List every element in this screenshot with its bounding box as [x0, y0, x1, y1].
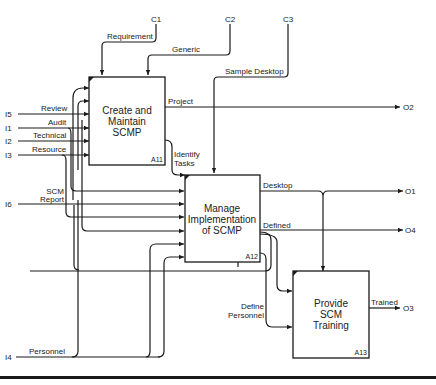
bottom-frame-rule [0, 376, 436, 379]
input-code-i2: I2 [5, 137, 12, 146]
activity-box-a13[interactable]: Provide SCM Training A13 [293, 271, 369, 358]
input-label-resource: Resource [32, 145, 67, 154]
box-title-line: SCMP [113, 127, 142, 138]
box-title-line: Provide [314, 298, 348, 309]
box-title-line: SCM [320, 309, 342, 320]
input-label-report: Report [40, 195, 65, 204]
box-id: A13 [355, 349, 368, 356]
control-code-c3: C3 [283, 15, 294, 24]
bundle-line-7 [72, 200, 78, 357]
arrow-c3 [214, 24, 288, 173]
box-title-line: Maintain [108, 116, 146, 127]
control-label-requirement: Requirement [107, 32, 154, 41]
input-code-i3: I3 [5, 151, 12, 160]
output-label-project: Project [168, 97, 194, 106]
control-label-sample-desktop: Sample Desktop [225, 67, 284, 76]
output-code-o3: O3 [403, 304, 414, 313]
box-title-line: Create and [102, 105, 151, 116]
output-code-o4: O4 [405, 226, 416, 235]
label-identify: Identify [174, 150, 200, 159]
arrow-personnel-2 [158, 257, 184, 357]
input-code-i4: I4 [5, 353, 12, 362]
box-title-line: Implementation [188, 214, 256, 225]
control-code-c1: C1 [151, 15, 162, 24]
input-code-i6: I6 [5, 200, 12, 209]
arrow-defined-to-a13 [260, 234, 292, 291]
input-label-technical: Technical [33, 131, 67, 140]
input-code-i5: I5 [5, 110, 12, 119]
box-id: A12 [246, 253, 259, 260]
output-code-o1: O1 [405, 187, 416, 196]
output-code-o2: O2 [403, 103, 414, 112]
idef0-diagram: Create and Maintain SCMP A11 Manage Impl… [0, 0, 436, 385]
box-id: A11 [151, 156, 163, 163]
output-label-defined: Defined [263, 221, 291, 230]
arrow-personnel-1 [146, 244, 184, 357]
input-label-audit: Audit [48, 118, 67, 127]
input-code-i1: I1 [5, 124, 12, 133]
box-title-line: of SCMP [202, 225, 242, 236]
box-title-line: Training [313, 320, 349, 331]
box-title-line: Manage [204, 203, 241, 214]
control-code-c2: C2 [225, 15, 236, 24]
input-label-personnel: Personnel [29, 347, 65, 356]
activity-box-a12[interactable]: Manage Implementation of SCMP A12 [185, 175, 260, 262]
bundle-line-1 [73, 88, 89, 200]
activity-box-a11[interactable]: Create and Maintain SCMP A11 [89, 77, 165, 165]
bundle-line-2 [78, 101, 89, 170]
label-define: Define [241, 302, 265, 311]
output-label-desktop: Desktop [263, 181, 293, 190]
control-label-generic: Generic [172, 45, 200, 54]
arrow-define-personnel [260, 253, 292, 327]
label-personnel: Personnel [228, 311, 264, 320]
output-label-trained: Trained [371, 298, 398, 307]
input-label-review: Review [41, 104, 67, 113]
arrow-o1 [260, 191, 403, 196]
label-tasks: Tasks [174, 159, 194, 168]
